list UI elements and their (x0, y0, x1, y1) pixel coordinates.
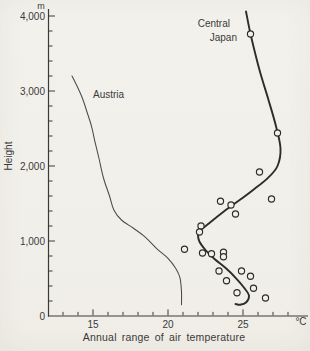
x-axis-tick-label: 20 (162, 319, 174, 330)
y-axis-tick-label: 2,000 (20, 161, 45, 172)
central-japan-data-point (234, 290, 240, 296)
central-japan-data-point (228, 202, 234, 208)
x-axis-title: Annual range of air temperature (83, 331, 245, 343)
central-japan-data-point (274, 130, 280, 136)
y-axis-tick-label: 3,000 (20, 86, 45, 97)
central-japan-data-point (247, 273, 253, 279)
central-japan-data-point (256, 169, 262, 175)
central-japan-curve (198, 12, 281, 305)
central-japan-data-point (181, 246, 187, 252)
y-axis-tick-label: 4,000 (20, 11, 45, 22)
scanned-figure-page: 15202501,0002,0003,0004,000 m Height Cen… (0, 0, 310, 351)
central-japan-data-point (262, 295, 268, 301)
central-japan-data-point (217, 198, 223, 204)
austria-curve (72, 76, 182, 305)
central-japan-data-point (232, 211, 238, 217)
central-japan-data-point (196, 229, 202, 235)
central-japan-data-point (250, 285, 256, 291)
series-label-central-japan-line2: Japan (210, 32, 237, 43)
series-label-austria: Austria (93, 89, 125, 100)
chart-generated-layer: 15202501,0002,0003,0004,000 (20, 9, 308, 330)
x-axis-unit-label: °C (295, 316, 306, 327)
y-axis-tick-label: 0 (39, 311, 45, 322)
central-japan-data-point (216, 268, 222, 274)
x-axis-tick-label: 25 (237, 319, 249, 330)
central-japan-data-point (223, 278, 229, 284)
series-label-central-japan-line1: Central (198, 18, 230, 29)
central-japan-data-point (247, 31, 253, 37)
central-japan-data-point (238, 268, 244, 274)
height-vs-annual-temperature-range-chart: 15202501,0002,0003,0004,000 m Height Cen… (0, 0, 310, 351)
y-axis-tick-label: 1,000 (20, 236, 45, 247)
central-japan-data-point (220, 254, 226, 260)
central-japan-data-point (208, 251, 214, 257)
central-japan-data-point (268, 196, 274, 202)
y-axis-unit-label: m (37, 1, 45, 11)
central-japan-data-point (198, 223, 204, 229)
x-axis-tick-label: 15 (87, 319, 99, 330)
y-axis-title: Height (3, 141, 14, 170)
central-japan-data-point (199, 250, 205, 256)
